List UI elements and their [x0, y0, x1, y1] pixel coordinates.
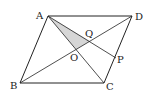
- segment-AP: [48, 16, 116, 58]
- label-A: A: [35, 10, 44, 21]
- label-P: P: [117, 54, 124, 65]
- label-Q: Q: [85, 28, 93, 39]
- parallelogram-diagram: A D B C O P Q: [0, 0, 152, 95]
- label-C: C: [106, 81, 114, 92]
- label-O: O: [70, 52, 78, 63]
- label-B: B: [10, 80, 17, 91]
- label-D: D: [135, 11, 143, 22]
- diagonal-BD: [20, 16, 132, 83]
